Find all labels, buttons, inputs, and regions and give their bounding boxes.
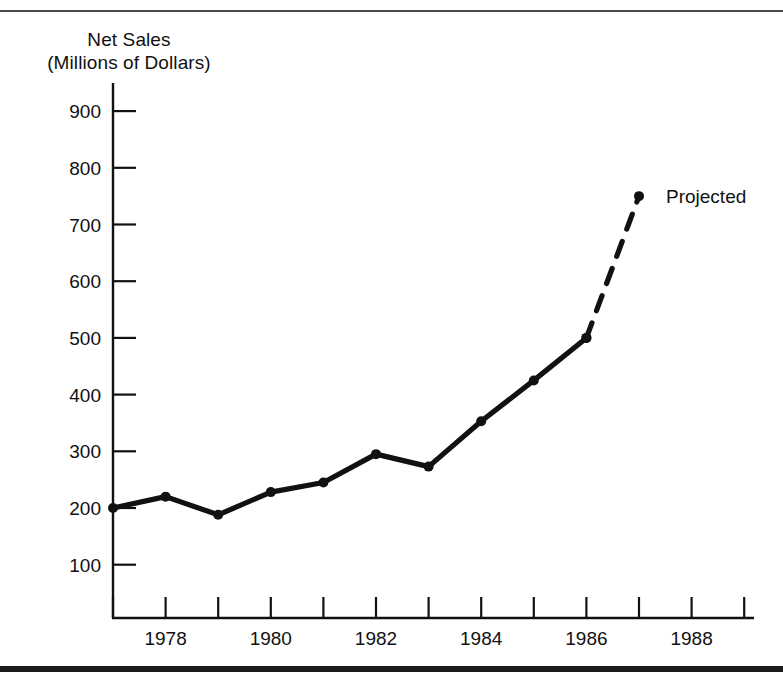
- actual-series-line: [113, 338, 586, 515]
- y-axis-tick-label: 100: [69, 555, 101, 576]
- data-point-marker: [634, 191, 644, 201]
- projected-series-label: Projected: [666, 186, 746, 207]
- line-chart-plot: 100200300400500600700800900 197819801982…: [0, 0, 783, 686]
- chart-annotation-layer: Projected: [666, 186, 746, 207]
- y-axis-tick-label: 600: [69, 271, 101, 292]
- data-point-marker: [476, 416, 486, 426]
- y-axis-tick-label: 700: [69, 215, 101, 236]
- net-sales-chart-figure: Net Sales (Millions of Dollars) 10020030…: [0, 0, 783, 686]
- data-point-marker: [108, 503, 118, 513]
- y-axis-tick-label: 500: [69, 328, 101, 349]
- x-axis: 197819801982198419861988: [112, 597, 754, 649]
- y-axis-tick-group: [113, 111, 136, 565]
- x-axis-tick-label: 1978: [144, 628, 186, 649]
- data-point-marker: [266, 487, 276, 497]
- data-point-marker: [529, 375, 539, 385]
- data-point-marker: [371, 449, 381, 459]
- x-axis-tick-label: 1980: [250, 628, 292, 649]
- projected-series-line: [586, 196, 639, 338]
- data-series-layer: [108, 191, 644, 520]
- x-axis-tick-label: 1988: [670, 628, 712, 649]
- bottom-divider-rule: [0, 666, 783, 672]
- y-axis: 100200300400500600700800900: [69, 83, 136, 618]
- y-axis-tick-label: 400: [69, 385, 101, 406]
- x-axis-tick-label: 1986: [565, 628, 607, 649]
- y-axis-tick-label: 300: [69, 441, 101, 462]
- data-point-marker: [213, 510, 223, 520]
- x-axis-tick-label: 1982: [355, 628, 397, 649]
- y-axis-tick-label: 800: [69, 158, 101, 179]
- x-axis-tick-label: 1984: [460, 628, 503, 649]
- x-axis-tick-group: [113, 597, 744, 618]
- data-point-marker: [161, 492, 171, 502]
- data-point-marker: [424, 462, 434, 472]
- x-axis-tick-label-group: 197819801982198419861988: [144, 628, 712, 649]
- y-axis-tick-label: 900: [69, 101, 101, 122]
- y-axis-tick-label-group: 100200300400500600700800900: [69, 101, 101, 576]
- data-point-marker: [581, 333, 591, 343]
- y-axis-tick-label: 200: [69, 498, 101, 519]
- data-point-marker: [318, 477, 328, 487]
